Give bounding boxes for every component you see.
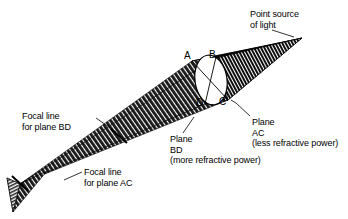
label-focal-line-bd: Focal line for plane BD	[22, 111, 71, 132]
diagram-canvas	[0, 0, 348, 219]
label-plane-ac: Plane AC (less refractive power)	[252, 117, 338, 149]
label-plane-bd: Plane BD (more refractive power)	[170, 134, 261, 166]
label-point-d: D	[196, 98, 203, 108]
leader-point-source	[272, 30, 294, 37]
label-point-c: C	[219, 97, 226, 107]
leader-plane-ac	[236, 103, 250, 116]
label-point-b: B	[209, 50, 216, 60]
astigmatism-diagram: Point source of light Plane AC (less ref…	[0, 0, 348, 219]
leader-plane-bd	[183, 117, 194, 133]
label-point-source: Point source of light	[250, 9, 299, 30]
leader-focal-ac	[64, 172, 82, 180]
leader-plane-ac-hook	[231, 100, 236, 103]
label-focal-line-ac: Focal line for plane AC	[84, 167, 132, 188]
label-point-a: A	[184, 51, 191, 61]
